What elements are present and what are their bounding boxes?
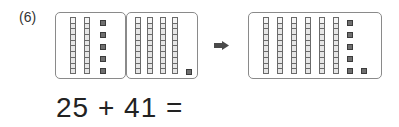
rod-cell [305,68,311,74]
ten-rod [291,17,297,74]
unit-cube [361,68,367,74]
unit-cube [347,44,353,50]
rod-cell [277,68,283,74]
ten-rod [319,17,325,74]
ten-rod [147,17,153,74]
ten-rod [84,17,90,74]
rod-cell [263,68,269,74]
unit-cube [347,68,353,74]
blocks-box-result [248,12,382,79]
ten-rod [333,17,339,74]
ten-rod [305,17,311,74]
ten-rod [277,17,283,74]
rod-cell [291,68,297,74]
rod-cell [70,68,76,74]
unit-cube [347,32,353,38]
rod-cell [160,68,166,74]
ten-rod [172,17,178,74]
rod-cell [147,68,153,74]
blocks-box-25 [55,12,126,79]
rod-cell [172,68,178,74]
rod-cell [135,68,141,74]
right-arrow-icon [214,41,229,50]
rod-cell [319,68,325,74]
ten-rod [160,17,166,74]
problem-number: (6) [19,9,36,25]
unit-cube [100,44,106,50]
rod-cell [333,68,339,74]
unit-cube [186,69,192,75]
unit-cube [100,20,106,26]
unit-cube [347,56,353,62]
ten-rod [135,17,141,74]
rod-cell [84,68,90,74]
ten-rod [70,17,76,74]
ten-rod [263,17,269,74]
unit-cube [100,32,106,38]
addition-equation: 25 + 41 = [56,92,183,124]
unit-cube [347,20,353,26]
unit-cube [100,68,106,74]
blocks-box-41 [126,12,198,79]
unit-cube [100,56,106,62]
